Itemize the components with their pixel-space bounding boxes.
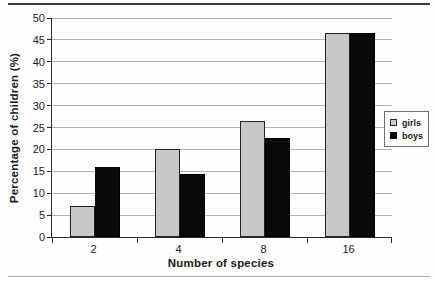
gridline-50 <box>52 18 392 19</box>
bar-girls-16 <box>325 33 350 237</box>
figure-top-border <box>8 3 430 5</box>
y-tick-label-0: 0 <box>18 231 45 243</box>
legend-label-boys: boys <box>402 131 423 141</box>
y-tick-10 <box>47 193 52 194</box>
x-category-label-8: 8 <box>221 243 306 255</box>
x-category-label-4: 4 <box>136 243 221 255</box>
y-tick-20 <box>47 149 52 150</box>
bar-girls-8 <box>240 121 265 237</box>
y-tick-label-45: 45 <box>18 34 45 46</box>
y-tick-label-5: 5 <box>18 209 45 221</box>
bar-girls-4 <box>155 149 180 237</box>
y-tick-label-50: 50 <box>18 12 45 24</box>
legend-swatch-girls <box>390 119 397 126</box>
y-tick-40 <box>47 61 52 62</box>
bar-boys-4 <box>180 174 205 238</box>
legend: girlsboys <box>384 111 429 147</box>
y-tick-label-10: 10 <box>18 187 45 199</box>
bar-boys-2 <box>95 167 120 237</box>
y-tick-label-15: 15 <box>18 165 45 177</box>
y-tick-label-40: 40 <box>18 56 45 68</box>
y-tick-50 <box>47 18 52 19</box>
y-tick-5 <box>47 215 52 216</box>
legend-label-girls: girls <box>402 118 421 128</box>
y-tick-label-30: 30 <box>18 100 45 112</box>
legend-swatch-boys <box>390 132 397 139</box>
legend-item-boys: boys <box>390 129 426 142</box>
bar-chart-figure: Percentage of children (%) 0510152025303… <box>0 0 435 281</box>
y-tick-30 <box>47 105 52 106</box>
legend-item-girls: girls <box>390 116 426 129</box>
x-axis-title: Number of species <box>51 257 391 269</box>
x-category-label-16: 16 <box>306 243 391 255</box>
plot-area <box>51 18 392 238</box>
x-tick-4 <box>391 238 392 243</box>
bar-girls-2 <box>70 206 95 237</box>
bar-boys-8 <box>265 138 290 237</box>
y-tick-35 <box>47 83 52 84</box>
y-tick-label-20: 20 <box>18 143 45 155</box>
y-tick-25 <box>47 127 52 128</box>
y-tick-15 <box>47 171 52 172</box>
y-tick-label-35: 35 <box>18 78 45 90</box>
figure-bottom-border <box>8 276 430 277</box>
y-tick-label-25: 25 <box>18 122 45 134</box>
x-category-label-2: 2 <box>51 243 136 255</box>
y-tick-45 <box>47 39 52 40</box>
bar-boys-16 <box>350 33 375 237</box>
